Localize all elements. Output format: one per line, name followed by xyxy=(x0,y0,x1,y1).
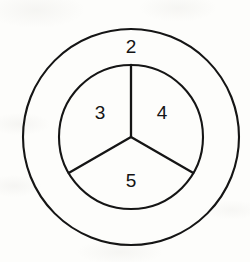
region-label-3: 3 xyxy=(85,103,115,122)
spoke-lower-right-radius xyxy=(131,137,193,173)
region-label-2: 2 xyxy=(116,37,146,56)
spoke-lower-left-radius xyxy=(69,137,131,173)
region-label-4: 4 xyxy=(147,103,177,122)
figure-canvas: 2 3 4 5 xyxy=(0,0,250,262)
region-label-5: 5 xyxy=(116,171,146,190)
